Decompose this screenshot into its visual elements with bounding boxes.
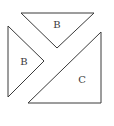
right-triangle — [28, 32, 101, 103]
tangram-diagram: B B C — [0, 0, 114, 126]
piece-top-b: B — [21, 13, 94, 48]
top-triangle-label: B — [53, 19, 60, 30]
piece-left-b: B — [8, 26, 44, 97]
right-triangle-label: C — [78, 74, 86, 85]
left-triangle-label: B — [20, 56, 27, 67]
piece-right-c: C — [28, 32, 101, 103]
